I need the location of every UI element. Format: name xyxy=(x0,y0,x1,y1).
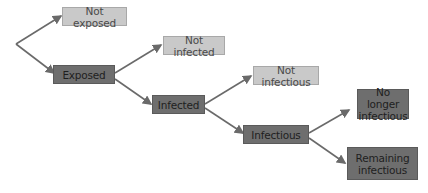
node-label: Not infectious xyxy=(254,64,318,88)
node-label: Remaining infectious xyxy=(354,152,411,176)
edge-root-exposed xyxy=(16,44,54,73)
node-no-longer-infectious: No longer infectious xyxy=(357,89,409,119)
edge-root-not-exposed xyxy=(16,16,61,44)
node-label: Infected xyxy=(158,99,199,111)
node-label: Not exposed xyxy=(63,5,126,29)
edge-infected-infectious xyxy=(205,108,243,133)
edge-exposed-not-infected xyxy=(115,45,161,73)
node-not-infected: Not infected xyxy=(163,36,225,55)
edge-infectious-remaining xyxy=(309,138,345,163)
node-label: No longer infectious xyxy=(358,86,407,122)
node-label: Exposed xyxy=(62,69,105,81)
node-infectious: Infectious xyxy=(243,125,309,144)
node-remaining-infectious: Remaining infectious xyxy=(347,147,418,180)
edge-infectious-no-longer xyxy=(309,110,349,133)
node-not-exposed: Not exposed xyxy=(62,7,127,26)
edge-infected-not-infectious xyxy=(205,76,251,104)
node-infected: Infected xyxy=(152,95,205,114)
node-not-infectious: Not infectious xyxy=(253,66,319,85)
node-label: Not infected xyxy=(164,34,224,58)
node-exposed: Exposed xyxy=(53,65,115,84)
edge-exposed-infected xyxy=(115,79,151,104)
node-label: Infectious xyxy=(251,129,300,141)
